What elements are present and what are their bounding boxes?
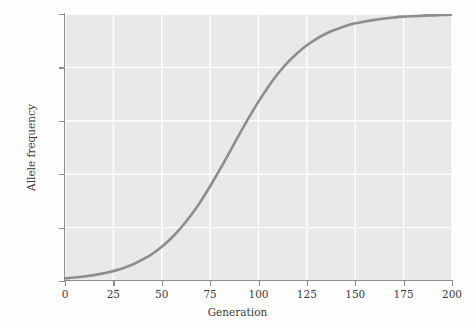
x-tick-label: 150: [345, 288, 365, 300]
x-tick-mark: [210, 281, 211, 286]
y-axis-line: [64, 13, 65, 282]
y-tick-mark: [59, 67, 64, 68]
plot-panel: [65, 14, 452, 281]
x-tick-label: 50: [155, 288, 168, 300]
x-tick-mark: [162, 281, 163, 286]
x-tick-label: 200: [442, 288, 462, 300]
y-tick-mark: [59, 14, 64, 15]
x-axis-title: Generation: [0, 306, 475, 318]
x-tick-mark: [404, 281, 405, 286]
x-tick-label: 0: [62, 288, 69, 300]
y-tick-mark: [59, 281, 64, 282]
x-tick-mark: [259, 281, 260, 286]
x-tick-label: 100: [248, 288, 268, 300]
x-tick-label: 25: [107, 288, 120, 300]
x-tick-label: 125: [297, 288, 317, 300]
allele-frequency-curve: [65, 14, 452, 281]
x-tick-mark: [65, 281, 66, 286]
x-tick-mark: [307, 281, 308, 286]
x-tick-mark: [113, 281, 114, 286]
x-tick-mark: [452, 281, 453, 286]
y-tick-mark: [59, 121, 64, 122]
y-axis-title: Allele frequency: [24, 14, 38, 281]
chart-figure: 02550751001251501752000.00.20.40.60.81.0…: [0, 0, 475, 327]
x-tick-mark: [355, 281, 356, 286]
x-tick-label: 175: [394, 288, 414, 300]
x-tick-label: 75: [203, 288, 216, 300]
y-tick-mark: [59, 174, 64, 175]
y-tick-mark: [59, 228, 64, 229]
